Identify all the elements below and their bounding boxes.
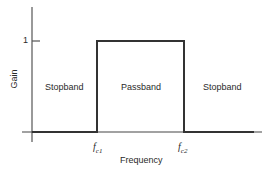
y-axis-label: Gain	[9, 69, 19, 88]
region-label-stopband-left: Stopband	[45, 82, 84, 92]
x-axis-label: Frequency	[120, 155, 163, 165]
fc1-subscript: c1	[96, 147, 103, 155]
region-label-passband: Passband	[121, 82, 161, 92]
x-tick-label-fc1: fc1	[93, 141, 102, 155]
x-tick-label-fc2: fc2	[178, 141, 187, 155]
y-tick-label: 1	[23, 35, 28, 45]
fc2-subscript: c2	[181, 147, 188, 155]
region-label-stopband-right: Stopband	[203, 82, 242, 92]
